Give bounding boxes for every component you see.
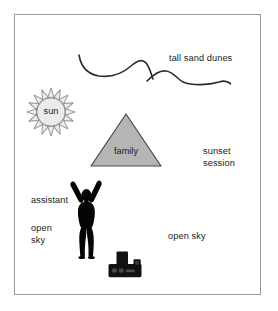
family-triangle-svg [89, 112, 163, 168]
family-label: family [89, 146, 163, 156]
family-triangle: family [89, 112, 163, 168]
dune-curve-segment-1 [79, 55, 153, 79]
triangle-shape [91, 114, 161, 166]
camera-silhouette-svg [108, 251, 144, 280]
sun-icon: sun [27, 88, 75, 136]
label-assistant: assistant [31, 195, 68, 207]
sun-label: sun [27, 106, 75, 116]
assistant-figure [67, 179, 105, 259]
camera-icon [108, 251, 144, 280]
label-open-sky-left: open sky [31, 223, 52, 246]
label-sunset-session: sunset session [203, 146, 235, 169]
dune-curve-segment-2 [147, 71, 231, 86]
scene-frame: sun family [14, 14, 261, 295]
label-open-sky-right: open sky [168, 231, 206, 243]
scene-canvas: sun family [0, 0, 278, 311]
label-tall-sand-dunes: tall sand dunes [169, 53, 232, 65]
assistant-silhouette-svg [67, 179, 105, 259]
